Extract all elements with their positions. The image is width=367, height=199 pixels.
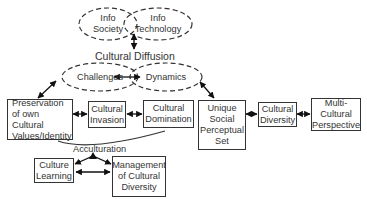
cultural-diffusion-title: Cultural Diffusion — [95, 50, 175, 62]
management-of-cultural-diversity-box: Management of Cultural Diversity — [112, 156, 166, 197]
unique-social-perceptual-set-box: Unique Social Perceptual Set — [198, 100, 246, 150]
culture-learning-box: Culture Learning — [34, 158, 74, 183]
arrow-dynamics-unique — [200, 82, 214, 98]
acculturation-curve — [58, 131, 165, 145]
dynamics-label: Dynamics — [132, 70, 200, 84]
challenges-label: Challenges — [64, 70, 136, 84]
cultural-invasion-box: Cultural Invasion — [88, 101, 126, 128]
cultural-domination-box: Cultural Domination — [143, 100, 194, 128]
multi-cultural-perspective-box: Multi- Cultural Perspective — [311, 98, 361, 131]
cultural-diversity-box: Cultural Diversity — [258, 102, 297, 127]
arrow-challenges-preservation — [38, 81, 56, 98]
preservation-box: Preservation of own Cultural Values/Iden… — [7, 99, 73, 140]
acculturation-label: Acculturation — [73, 144, 126, 154]
info-technology-label: Info Technology — [126, 11, 190, 37]
